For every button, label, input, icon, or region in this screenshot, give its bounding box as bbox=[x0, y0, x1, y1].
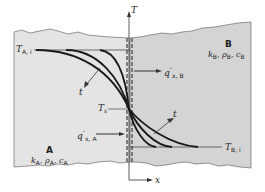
medium-b-props: kB, ρB, cB bbox=[208, 51, 245, 60]
medium-b-k-sub: B bbox=[213, 53, 217, 60]
medium-a-name: A bbox=[46, 146, 53, 155]
flux-a-sub: x, A bbox=[85, 135, 96, 142]
medium-a-rho-sub: A bbox=[50, 159, 54, 166]
time-label-a: t bbox=[79, 88, 83, 97]
tb-initial-label: TB, i bbox=[225, 143, 241, 153]
flux-a-label: q″x, A bbox=[77, 130, 97, 142]
medium-b-name: B bbox=[225, 40, 232, 49]
medium-b-c-sub: B bbox=[240, 53, 244, 60]
ts-label: Ts bbox=[98, 104, 107, 114]
time-label-a-text: t bbox=[79, 87, 83, 97]
medium-a-name-text: A bbox=[46, 145, 53, 155]
t-axis-label: T bbox=[131, 6, 137, 15]
time-label-b: t bbox=[173, 110, 177, 119]
ts-sub: s bbox=[104, 107, 107, 114]
tb-initial-sub: B, i bbox=[231, 146, 241, 153]
medium-b-rho-sub: B bbox=[227, 53, 231, 60]
ta-initial-label: TA, i bbox=[16, 45, 32, 55]
medium-a-c-sub: A bbox=[63, 159, 67, 166]
time-label-b-text: t bbox=[173, 109, 177, 119]
x-axis-label-text: x bbox=[155, 175, 160, 185]
ta-initial-sub: A, i bbox=[22, 48, 32, 55]
x-axis-arrow-icon bbox=[147, 178, 153, 182]
medium-b-name-text: B bbox=[225, 39, 232, 49]
flux-b-label: q″x, B bbox=[164, 67, 184, 79]
medium-a-k-sub: A bbox=[36, 159, 40, 166]
flux-b-sub: x, B bbox=[172, 72, 183, 79]
x-axis-label: x bbox=[155, 176, 160, 185]
t-axis-label-text: T bbox=[131, 5, 137, 15]
medium-a-props: kA, ρA, cA bbox=[31, 157, 68, 166]
